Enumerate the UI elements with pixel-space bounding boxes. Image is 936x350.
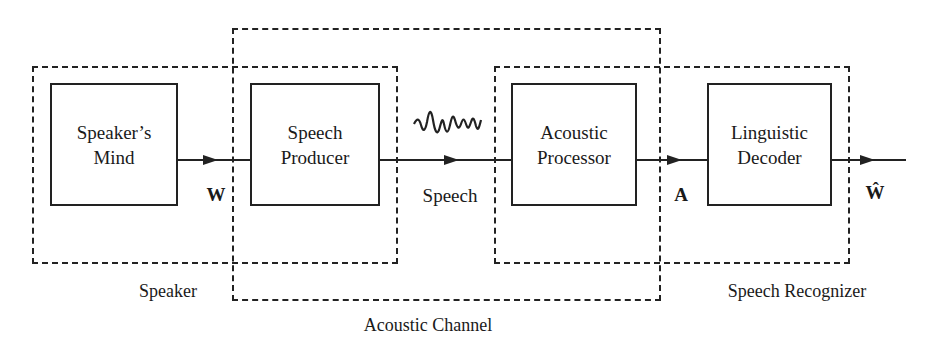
group-label-speech-recognizer: Speech Recognizer <box>728 281 866 302</box>
block-label: Acoustic Processor <box>537 120 611 170</box>
group-label-speaker: Speaker <box>139 281 197 302</box>
arrow-icon <box>667 155 682 165</box>
block-speech-producer: Speech Producer <box>250 83 380 206</box>
block-acoustic-processor: Acoustic Processor <box>511 83 637 206</box>
signal-label-w-hat: Ŵ <box>866 182 885 204</box>
block-label: Speaker’s Mind <box>77 120 152 170</box>
group-label-acoustic-channel: Acoustic Channel <box>364 315 492 336</box>
signal-label-a: A <box>674 184 688 206</box>
arrow-icon <box>203 155 218 165</box>
arrow-icon <box>860 155 875 165</box>
signal-label-speech: Speech <box>423 185 478 207</box>
block-speakers-mind: Speaker’s Mind <box>50 83 178 206</box>
arrow-icon <box>444 155 459 165</box>
signal-label-w: W <box>207 184 226 206</box>
block-label: Linguistic Decoder <box>731 120 808 170</box>
block-label: Speech Producer <box>281 120 350 170</box>
block-linguistic-decoder: Linguistic Decoder <box>707 83 832 206</box>
speech-waveform-icon <box>414 112 481 132</box>
